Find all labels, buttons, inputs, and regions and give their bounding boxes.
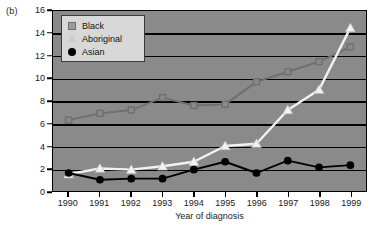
x-tick-label: 1990: [58, 198, 78, 208]
circle-marker-icon: [65, 46, 79, 57]
figure-panel-b: (b) 0246810121416 Black Aboriginal Asian…: [0, 0, 379, 225]
x-tick-mark: [225, 192, 227, 197]
data-point: [160, 95, 166, 101]
y-tick-label: 6: [40, 119, 45, 129]
x-axis-title: Year of diagnosis: [52, 211, 367, 221]
x-tick-mark: [193, 192, 195, 197]
data-point: [127, 175, 135, 183]
x-tick-mark: [162, 192, 164, 197]
legend: Black Aboriginal Asian: [61, 15, 145, 62]
y-tick-label: 16: [35, 5, 45, 15]
x-tick-mark: [351, 192, 353, 197]
legend-item-asian: Asian: [65, 45, 140, 58]
data-point: [191, 103, 197, 109]
data-point: [314, 85, 324, 94]
x-tick-label: 1998: [310, 198, 330, 208]
data-point: [315, 164, 323, 172]
data-point: [65, 169, 73, 177]
y-tick-label: 10: [35, 73, 45, 83]
data-point: [347, 44, 353, 50]
data-point: [190, 166, 198, 174]
legend-label-black: Black: [82, 21, 104, 31]
x-tick-mark: [130, 192, 132, 197]
data-point: [285, 69, 291, 75]
y-tick-label: 2: [40, 164, 45, 174]
legend-label-asian: Asian: [82, 47, 105, 57]
x-tick-label: 1999: [341, 198, 361, 208]
x-tick-label: 1992: [121, 198, 141, 208]
y-tick-label: 8: [40, 96, 45, 106]
data-point: [253, 169, 261, 177]
x-tick-mark: [319, 192, 321, 197]
x-tick-mark: [256, 192, 258, 197]
x-tick-label: 1993: [152, 198, 172, 208]
x-tick-mark: [99, 192, 101, 197]
data-point: [346, 161, 354, 169]
x-tick-label: 1996: [247, 198, 267, 208]
data-point: [97, 110, 103, 116]
x-tick-label: 1991: [89, 198, 109, 208]
y-axis: 0246810121416: [0, 0, 52, 202]
y-tick-label: 4: [40, 142, 45, 152]
y-tick-label: 0: [40, 187, 45, 197]
square-marker-icon: [65, 20, 79, 31]
data-point: [159, 175, 167, 183]
data-point: [128, 107, 134, 113]
data-point: [66, 117, 72, 123]
legend-item-aboriginal: Aboriginal: [65, 32, 140, 45]
data-point: [284, 157, 292, 165]
series-asian: [65, 157, 354, 184]
x-tick-label: 1997: [278, 198, 298, 208]
y-tick-label: 12: [35, 51, 45, 61]
y-tick-label: 14: [35, 28, 45, 38]
data-point: [221, 158, 229, 166]
data-point: [222, 101, 228, 107]
legend-label-aboriginal: Aboriginal: [82, 34, 122, 44]
triangle-marker-icon: [65, 33, 79, 44]
x-tick-label: 1994: [184, 198, 204, 208]
x-tick-mark: [288, 192, 290, 197]
x-tick-mark: [67, 192, 69, 197]
x-tick-label: 1995: [215, 198, 235, 208]
data-point: [316, 59, 322, 65]
legend-item-black: Black: [65, 19, 140, 32]
data-point: [345, 23, 355, 32]
data-point: [253, 79, 259, 85]
data-point: [96, 176, 104, 184]
